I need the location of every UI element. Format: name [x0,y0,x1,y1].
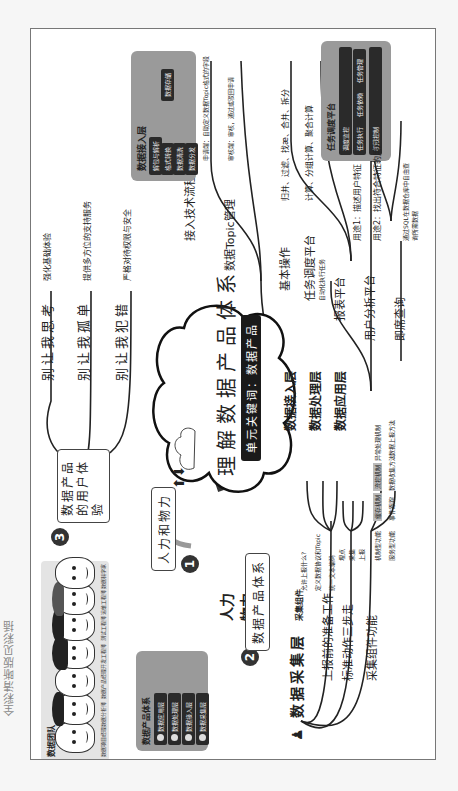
basic-op-item: 归并、过滤、找æ、合并、拆分 [279,89,290,201]
collect-layer-title: ♟ 数据采集层 [286,633,306,741]
function-item: 事件跟踪 [387,497,396,521]
steps-label: 标准动作三步走 [339,604,355,681]
avatar [55,557,95,589]
scheduler-mid: 任务管理 [353,49,366,87]
access-layer-title: 数据接入层 [281,371,298,431]
user-analysis-label: 用户分析平台 [361,275,377,341]
topic-label: 数据Topic管理 [221,199,237,271]
function-item: 缓存机制 [373,493,382,521]
branch3-number: 3 [51,528,69,546]
layer-chip: 数据采集层 [196,693,209,745]
layer-chip: 数据处理层 [168,693,181,745]
prep-item: 定义数据协议和Topic [313,534,322,591]
role-label: 数据分析师 [99,702,106,727]
branch1-card: 人力和物力 [151,487,176,571]
b3-item-3: 别让我犯错 [111,301,130,381]
b3-desc-1: 强化基础体验 [41,233,52,281]
basic-ops-label: 基本操作 [276,247,292,291]
role-label: 数据项目经理 [99,727,106,757]
role-label: 数据产品经理 [99,669,106,699]
person-icon: ♟ [289,718,305,741]
role-label: 开发工程师 [99,644,106,669]
function-item: 数据收集方法 [387,455,396,491]
basic-op-item: 计算、分组计算、聚合计算 [303,105,314,201]
mindmap-page: ⬆⬇ 理解数据产品体系 单元关键词：数据产品 3 数据产品的用户体验 别让我思考… [30,28,436,760]
topic-item: 申请端：自助定义数据Topic格式的字段 [201,56,210,161]
prep-label: 上报前的准备工作 [319,593,335,681]
function-item: 异常处理机制 [373,425,382,461]
center-title: 理解数据产品体系 [211,268,240,476]
user-analysis-item: 用途1：描述用户特征 [351,164,362,241]
role-label: 运维工程师 [99,590,106,615]
user-analysis-item: 用途2：找出符合特征的用户 [371,140,382,241]
branch1-number: 1 [181,555,199,573]
step-item: 采集 [347,549,356,561]
scheduler-sub: 自动化执行任务 [317,259,326,301]
scheduler-panel-title: 任务调度平台 [325,103,336,151]
functions-label: 采集组件功能 [363,615,379,681]
adhoc-label: 即席查询 [391,297,407,341]
topic-item: 审核端：审核，通过或驳回申请 [226,77,235,161]
prep-item: 统一文本编码 [327,555,336,591]
scheduler-label: 任务调度平台 [301,235,317,301]
step-item: 上报 [357,549,366,561]
role-label: 测试工程师 [99,616,106,641]
product-system-panel: 数据产品体系 数据应用层 数据处理层 数据接入层 数据采集层 [136,651,208,751]
product-system-title: 数据产品体系 [140,697,151,745]
scheduler-mid: 任务执行 [353,117,366,155]
avatar [55,693,95,725]
b3-desc-2: 提供多方位的支持服务 [81,201,92,281]
branch3-card: 数据产品的用户体验 [57,449,110,523]
function-item: 数据上报方法 [387,420,396,456]
layer-chip: 数据接入层 [182,693,195,745]
function-group: 服务型功能 [387,531,396,561]
b3-desc-3: 严格对待权限与安全 [121,209,132,281]
apply-layer-title: 数据应用层 [331,371,348,431]
center-keyword: 单元关键词：数据产品 [241,315,261,461]
branch2-card: 数据产品体系 [245,553,270,651]
access-panel-title: 数据接入层 [135,126,148,171]
cloud-arrows: ⬆⬇ [171,466,187,489]
mindmap-canvas: ⬆⬇ 理解数据产品体系 单元关键词：数据产品 3 数据产品的用户体验 别让我思考… [31,29,436,760]
flow-label: 接入技术流程 [181,175,197,241]
team-panel: 数据团队 数据项目经理 数据分析师 数据产品经理 开发工程师 测试工程师 运维工… [41,561,109,760]
role-label: 数据科学家 [99,564,106,589]
adhoc-desc: 通过SQL在数据仓库中自由查询所需数据 [401,161,419,241]
flow-step: 数据分发 [185,143,198,175]
scheduler-monitor: 调度监控 [339,47,352,155]
b1-item-manpower: 人力 [216,593,236,621]
layer-chip: 数据应用层 [154,693,167,745]
step-item: 埋点 [337,549,346,561]
function-group: 机制型功能 [373,531,382,561]
scheduler-mid: 任务依赖 [353,83,366,121]
collect-subtitle: 采集组件 [293,589,304,621]
b3-item-1: 别让我思考 [37,301,56,381]
caption: 全彩清晰版见彩插 [2,620,22,716]
scheduler-permission: 权限控制 [369,47,382,155]
storage-target: 数据存储 [161,69,174,101]
b3-item-2: 别让我孤单 [73,301,92,381]
access-flow-panel: 数据接入层 解包与解析 格式转换 数据清洗 数据分发 数据存储 [131,51,196,181]
prep-item: 允许上报什么? [299,552,308,591]
process-layer-title: 数据处理层 [306,371,323,431]
function-item: 流控机制 [373,463,382,491]
report-platform: 报表平台 [331,277,347,321]
